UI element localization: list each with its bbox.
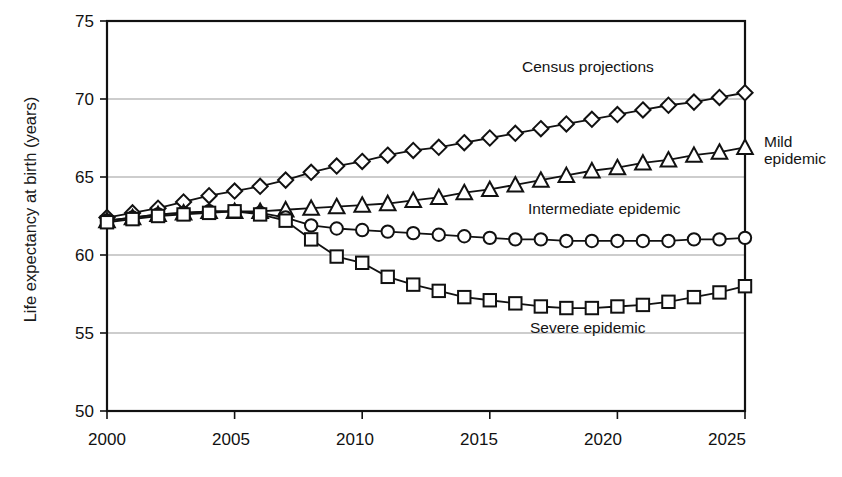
marker-square-severe-epidemic: [509, 297, 521, 309]
marker-circle-intermediate-epidemic: [688, 233, 700, 245]
marker-square-severe-epidemic: [484, 294, 496, 306]
marker-circle-intermediate-epidemic: [637, 235, 649, 247]
marker-circle-intermediate-epidemic: [356, 224, 368, 236]
marker-diamond-census-projections: [508, 126, 523, 141]
marker-square-severe-epidemic: [177, 208, 189, 220]
marker-diamond-census-projections: [457, 135, 472, 150]
marker-square-severe-epidemic: [330, 250, 342, 262]
marker-circle-intermediate-epidemic: [662, 235, 674, 247]
marker-circle-intermediate-epidemic: [330, 222, 342, 234]
marker-diamond-census-projections: [712, 90, 727, 105]
marker-diamond-census-projections: [278, 173, 293, 188]
series-line-severe-epidemic: [107, 211, 745, 308]
series-annotation-mild-line1: Mild: [764, 133, 826, 150]
marker-square-severe-epidemic: [586, 302, 598, 314]
marker-diamond-census-projections: [482, 130, 497, 145]
series-annotation-mild: Mild epidemic: [764, 133, 826, 168]
marker-diamond-census-projections: [661, 98, 676, 113]
marker-square-severe-epidemic: [713, 286, 725, 298]
marker-square-severe-epidemic: [356, 257, 368, 269]
marker-diamond-census-projections: [559, 116, 574, 131]
marker-diamond-census-projections: [635, 102, 650, 117]
marker-square-severe-epidemic: [433, 285, 445, 297]
y-tick-label: 75: [48, 12, 94, 32]
marker-diamond-census-projections: [253, 179, 268, 194]
marker-diamond-census-projections: [431, 140, 446, 155]
marker-square-severe-epidemic: [126, 213, 138, 225]
chart-figure: Life expectancy at birth (years) 75 70 6…: [0, 0, 842, 477]
marker-diamond-census-projections: [227, 183, 242, 198]
marker-triangle-mild-epidemic: [737, 140, 753, 154]
marker-square-severe-epidemic: [739, 280, 751, 292]
marker-square-severe-epidemic: [382, 271, 394, 283]
marker-square-severe-epidemic: [101, 216, 113, 228]
series-annotation-severe: Severe epidemic: [530, 319, 645, 336]
marker-diamond-census-projections: [355, 154, 370, 169]
marker-square-severe-epidemic: [688, 291, 700, 303]
marker-circle-intermediate-epidemic: [382, 225, 394, 237]
marker-square-severe-epidemic: [279, 214, 291, 226]
plot-area: [0, 0, 842, 477]
marker-square-severe-epidemic: [637, 299, 649, 311]
marker-circle-intermediate-epidemic: [713, 233, 725, 245]
marker-square-severe-epidemic: [535, 300, 547, 312]
marker-square-severe-epidemic: [228, 205, 240, 217]
marker-square-severe-epidemic: [203, 207, 215, 219]
marker-circle-intermediate-epidemic: [305, 219, 317, 231]
y-tick-label: 65: [48, 168, 94, 188]
marker-diamond-census-projections: [584, 112, 599, 127]
marker-diamond-census-projections: [533, 121, 548, 136]
marker-square-severe-epidemic: [611, 300, 623, 312]
x-tick-label: 2025: [692, 430, 762, 450]
y-axis-title: Life expectancy at birth (years): [21, 45, 40, 375]
marker-diamond-census-projections: [304, 165, 319, 180]
marker-circle-intermediate-epidemic: [433, 229, 445, 241]
x-tick-label: 2000: [72, 430, 142, 450]
x-tick-label: 2015: [444, 430, 514, 450]
marker-square-severe-epidemic: [254, 208, 266, 220]
marker-diamond-census-projections: [610, 107, 625, 122]
series-annotation-mild-line2: epidemic: [764, 150, 826, 167]
marker-circle-intermediate-epidemic: [611, 235, 623, 247]
marker-circle-intermediate-epidemic: [586, 235, 598, 247]
series-annotation-census: Census projections: [522, 58, 654, 75]
marker-square-severe-epidemic: [152, 210, 164, 222]
y-tick-label: 70: [48, 90, 94, 110]
y-tick-label: 50: [48, 402, 94, 422]
marker-diamond-census-projections: [201, 188, 216, 203]
marker-diamond-census-projections: [737, 85, 752, 100]
y-tick-label: 60: [48, 246, 94, 266]
marker-square-severe-epidemic: [407, 278, 419, 290]
marker-circle-intermediate-epidemic: [560, 235, 572, 247]
x-tick-label: 2005: [196, 430, 266, 450]
x-tick-label: 2020: [568, 430, 638, 450]
marker-diamond-census-projections: [686, 95, 701, 110]
marker-square-severe-epidemic: [560, 302, 572, 314]
marker-circle-intermediate-epidemic: [535, 233, 547, 245]
marker-square-severe-epidemic: [662, 296, 674, 308]
x-tick-label: 2010: [320, 430, 390, 450]
marker-diamond-census-projections: [406, 143, 421, 158]
marker-square-severe-epidemic: [458, 291, 470, 303]
series-annotation-intermediate: Intermediate epidemic: [528, 200, 681, 217]
marker-diamond-census-projections: [380, 148, 395, 163]
marker-circle-intermediate-epidemic: [509, 233, 521, 245]
marker-circle-intermediate-epidemic: [739, 232, 751, 244]
marker-circle-intermediate-epidemic: [484, 232, 496, 244]
marker-diamond-census-projections: [329, 158, 344, 173]
marker-square-severe-epidemic: [305, 233, 317, 245]
y-tick-label: 55: [48, 324, 94, 344]
marker-circle-intermediate-epidemic: [458, 230, 470, 242]
marker-circle-intermediate-epidemic: [407, 227, 419, 239]
